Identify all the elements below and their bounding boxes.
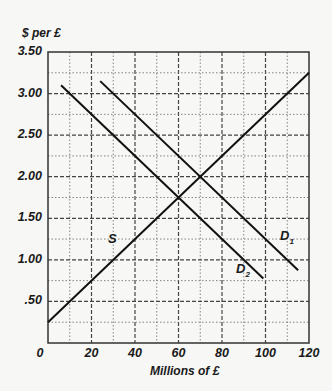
x-tick-label: 60 bbox=[164, 346, 194, 360]
demand-curve-2-label: D2 bbox=[236, 261, 250, 279]
x-tick-label: 20 bbox=[77, 346, 107, 360]
x-tick-label: 0 bbox=[25, 346, 55, 360]
y-tick-label: 3.50 bbox=[2, 44, 42, 58]
curve-D1 bbox=[100, 81, 298, 270]
x-tick-label: 40 bbox=[120, 346, 150, 360]
y-tick-label: 1.00 bbox=[2, 252, 42, 266]
x-tick-label: 80 bbox=[207, 346, 237, 360]
x-tick-label: 100 bbox=[251, 346, 281, 360]
y-tick-label: .50 bbox=[2, 293, 42, 307]
y-tick-label: 3.00 bbox=[2, 86, 42, 100]
x-axis-label: Millions of £ bbox=[150, 364, 219, 378]
demand-curve-1-label: D1 bbox=[280, 228, 294, 246]
chart-canvas bbox=[0, 0, 332, 391]
y-tick-label: 1.50 bbox=[2, 210, 42, 224]
y-tick-label: 2.50 bbox=[2, 127, 42, 141]
supply-curve-label: S bbox=[108, 231, 117, 246]
y-tick-label: 2.00 bbox=[2, 169, 42, 183]
x-tick-label: 120 bbox=[294, 346, 324, 360]
y-axis-label: $ per £ bbox=[22, 26, 61, 40]
